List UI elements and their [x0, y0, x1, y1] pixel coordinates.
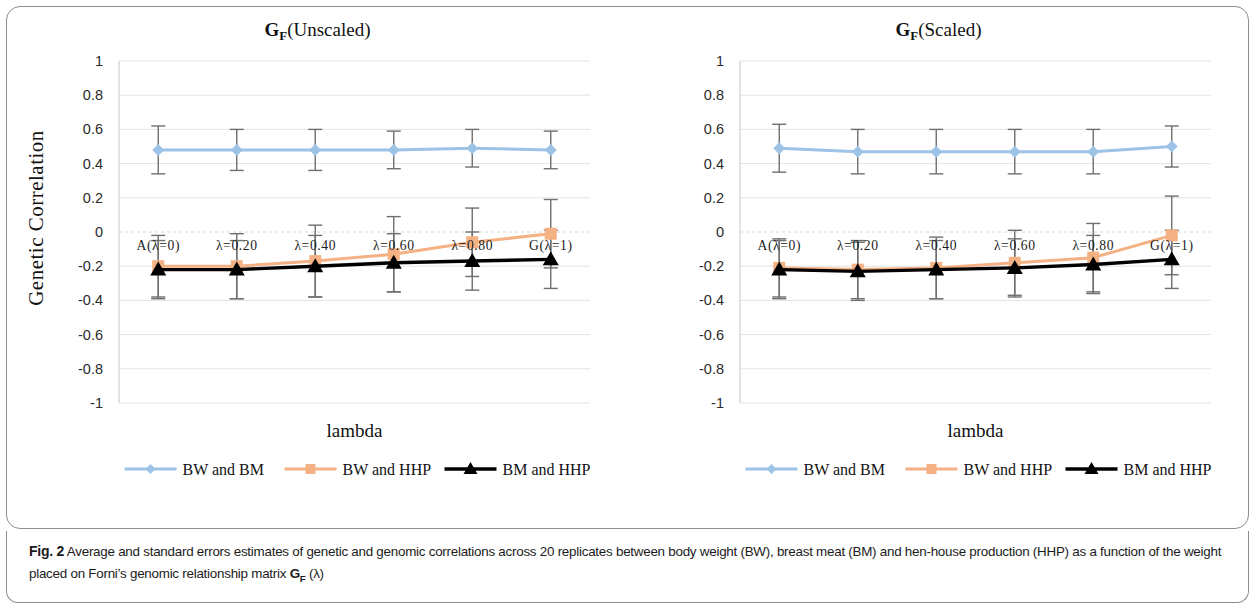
y-tick-label: 1 [716, 53, 724, 69]
x-category-label: λ=0.40 [915, 238, 957, 253]
x-axis-title: lambda [327, 420, 383, 441]
legend-item-label[interactable]: BW and HHP [343, 461, 432, 478]
x-category-label: λ=0.80 [1072, 238, 1114, 253]
legend-item-label[interactable]: BW and BM [804, 461, 885, 478]
y-tick-label: 1 [95, 53, 103, 69]
x-category-labels: A(λ=0)λ=0.20λ=0.40λ=0.60λ=0.80G(λ=1) [757, 238, 1193, 254]
y-gridlines: 10.80.60.40.20-0.2-0.4-0.6-0.8-1 [699, 53, 1211, 411]
figure-root: GF(Unscaled)10.80.60.40.20-0.2-0.4-0.6-0… [0, 0, 1255, 609]
caption-gf-symbol: GF [290, 566, 306, 581]
x-category-label: λ=0.60 [994, 238, 1036, 253]
data-point-marker [1166, 141, 1178, 153]
x-category-label: G(λ=1) [1150, 238, 1194, 254]
y-tick-label: -0.2 [699, 258, 724, 274]
x-category-label: λ=0.40 [294, 238, 336, 253]
y-tick-label: -1 [90, 395, 103, 411]
charts-row: GF(Unscaled)10.80.60.40.20-0.2-0.4-0.6-0… [7, 7, 1250, 505]
data-point-marker [231, 144, 243, 156]
chart-gf-scaled: GF(Scaled)10.80.60.40.20-0.2-0.4-0.6-0.8… [628, 7, 1249, 505]
legend-item-label[interactable]: BM and HHP [503, 461, 591, 478]
data-point-marker [388, 144, 400, 156]
error-bars [151, 126, 558, 299]
series-bw-and-bm [773, 141, 1178, 158]
y-tick-label: 0.6 [704, 121, 724, 137]
y-tick-label: -0.4 [78, 292, 103, 308]
y-tick-label: 0 [716, 224, 724, 240]
series-bm-and-hhp [150, 251, 559, 275]
data-point-marker [309, 144, 321, 156]
x-category-label: A(λ=0) [757, 238, 801, 254]
y-tick-label: 0 [95, 224, 103, 240]
caption-panel: Fig. 2 Average and standard errors estim… [6, 531, 1249, 603]
y-tick-label: -0.2 [78, 258, 103, 274]
y-tick-label: 0.2 [83, 190, 103, 206]
x-category-labels: A(λ=0)λ=0.20λ=0.40λ=0.60λ=0.80G(λ=1) [136, 238, 572, 254]
y-tick-label: -0.4 [699, 292, 724, 308]
y-tick-label: -1 [711, 395, 724, 411]
y-tick-label: 0.4 [704, 156, 724, 172]
x-category-label: G(λ=1) [529, 238, 573, 254]
data-point-marker [152, 144, 164, 156]
plot-panel: GF(Unscaled)10.80.60.40.20-0.2-0.4-0.6-0… [6, 6, 1249, 529]
legend-marker-diamond [767, 464, 777, 474]
y-gridlines: 10.80.60.40.20-0.2-0.4-0.6-0.8-1 [78, 53, 590, 411]
legend-marker-square [306, 464, 316, 474]
caption-figure-label: Fig. 2 [29, 543, 64, 559]
data-point-marker [1087, 146, 1099, 158]
x-axis-title: lambda [948, 420, 1004, 441]
legend-item-label[interactable]: BM and HHP [1124, 461, 1212, 478]
chart-gf-unscaled: GF(Unscaled)10.80.60.40.20-0.2-0.4-0.6-0… [7, 7, 628, 505]
data-point-marker [545, 144, 557, 156]
figure-caption: Fig. 2 Average and standard errors estim… [29, 540, 1226, 586]
y-tick-label: 0.2 [704, 190, 724, 206]
y-tick-label: 0.8 [704, 87, 724, 103]
caption-body-part2: (λ) [305, 566, 323, 581]
y-tick-label: -0.8 [699, 361, 724, 377]
x-category-label: λ=0.60 [373, 238, 415, 253]
legend-marker-diamond [146, 464, 156, 474]
series-bw-and-bm [152, 142, 557, 156]
x-category-label: λ=0.80 [451, 238, 493, 253]
legend-item-label[interactable]: BW and HHP [964, 461, 1053, 478]
y-tick-label: 0.8 [83, 87, 103, 103]
data-point-marker [930, 146, 942, 158]
y-tick-label: 0.4 [83, 156, 103, 172]
x-category-label: A(λ=0) [136, 238, 180, 254]
caption-body-part1: Average and standard errors estimates of… [29, 544, 1221, 581]
chart-legend: BW and BMBW and HHPBM and HHP [125, 461, 591, 478]
legend-marker-square [927, 464, 937, 474]
legend-item-label[interactable]: BW and BM [183, 461, 264, 478]
data-point-marker [773, 142, 785, 154]
caption-gf-letter: G [290, 566, 300, 581]
x-category-label: λ=0.20 [216, 238, 258, 253]
chart-legend: BW and BMBW and HHPBM and HHP [746, 461, 1212, 478]
y-tick-label: 0.6 [83, 121, 103, 137]
x-category-label: λ=0.20 [837, 238, 879, 253]
chart-canvas-gf-scaled: 10.80.60.40.20-0.2-0.4-0.6-0.8-1A(λ=0)λ=… [628, 35, 1249, 505]
data-point-marker [466, 142, 478, 154]
y-tick-label: -0.6 [78, 327, 103, 343]
chart-canvas-gf-unscaled: 10.80.60.40.20-0.2-0.4-0.6-0.8-1A(λ=0)λ=… [7, 35, 628, 505]
y-axis-title: Genetic Correlation [24, 130, 48, 306]
data-point-marker [1009, 146, 1021, 158]
y-tick-label: -0.8 [78, 361, 103, 377]
y-tick-label: -0.6 [699, 327, 724, 343]
data-point-marker [852, 146, 864, 158]
